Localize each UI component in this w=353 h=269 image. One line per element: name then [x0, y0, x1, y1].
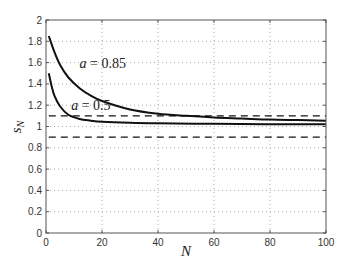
- x-axis-ticks: 020406080100: [43, 20, 335, 248]
- x-tick-label: 80: [264, 237, 276, 248]
- series-lines: [49, 36, 326, 137]
- x-tick-label: 0: [43, 237, 49, 248]
- y-tick-label: 1.2: [28, 100, 42, 111]
- y-tick-label: 0.4: [28, 185, 42, 196]
- x-tick-label: 60: [208, 237, 220, 248]
- x-axis-label: N: [180, 243, 192, 259]
- y-tick-label: 1.4: [28, 78, 42, 89]
- y-tick-label: 0.2: [28, 206, 42, 217]
- grid-lines: [46, 20, 326, 233]
- x-tick-label: 40: [152, 237, 164, 248]
- y-tick-label: 0.8: [28, 142, 42, 153]
- curve-annotation: a = 0.5: [71, 98, 110, 113]
- y-tick-label: 0: [36, 228, 42, 239]
- y-tick-label: 0.6: [28, 164, 42, 175]
- y-tick-label: 2: [36, 15, 42, 26]
- y-axis-label: sN: [8, 119, 26, 133]
- curve-annotation: a = 0.85: [80, 56, 126, 71]
- y-tick-label: 1.8: [28, 36, 42, 47]
- y-tick-label: 1.6: [28, 57, 42, 68]
- y-tick-label: 1: [36, 121, 42, 132]
- line-chart: 020406080100 00.20.40.60.811.21.41.61.82…: [0, 0, 353, 269]
- x-tick-label: 100: [318, 237, 335, 248]
- x-tick-label: 20: [96, 237, 108, 248]
- y-axis-ticks: 00.20.40.60.811.21.41.61.82: [28, 15, 326, 239]
